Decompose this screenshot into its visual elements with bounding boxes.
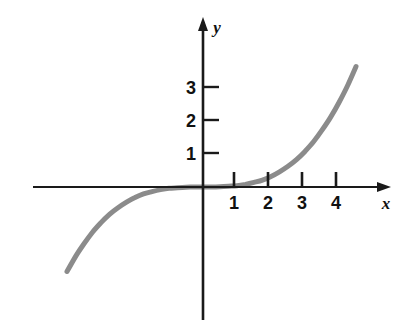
x-tick-label-4: 4 [331, 193, 341, 213]
y-tick-labels: 1 2 3 [186, 78, 196, 164]
data-curve-group [67, 67, 356, 272]
y-axis-label: y [211, 18, 221, 37]
x-tick-label-1: 1 [229, 193, 239, 213]
curve-cubic [67, 67, 356, 272]
x-tick-label-3: 3 [297, 193, 307, 213]
y-tick-label-2: 2 [186, 111, 196, 131]
x-tick-label-2: 2 [263, 193, 273, 213]
graph-canvas: 1 2 3 4 1 2 3 y x [0, 0, 418, 334]
y-axis [198, 17, 219, 320]
figure-container: 1 2 3 4 1 2 3 y x [0, 0, 418, 334]
y-tick-label-1: 1 [186, 144, 196, 164]
x-tick-labels: 1 2 3 4 [229, 193, 341, 213]
y-tick-label-3: 3 [186, 78, 196, 98]
x-axis-arrow-icon [377, 182, 391, 192]
x-axis-label: x [381, 194, 391, 213]
y-axis-arrow-icon [198, 17, 208, 31]
